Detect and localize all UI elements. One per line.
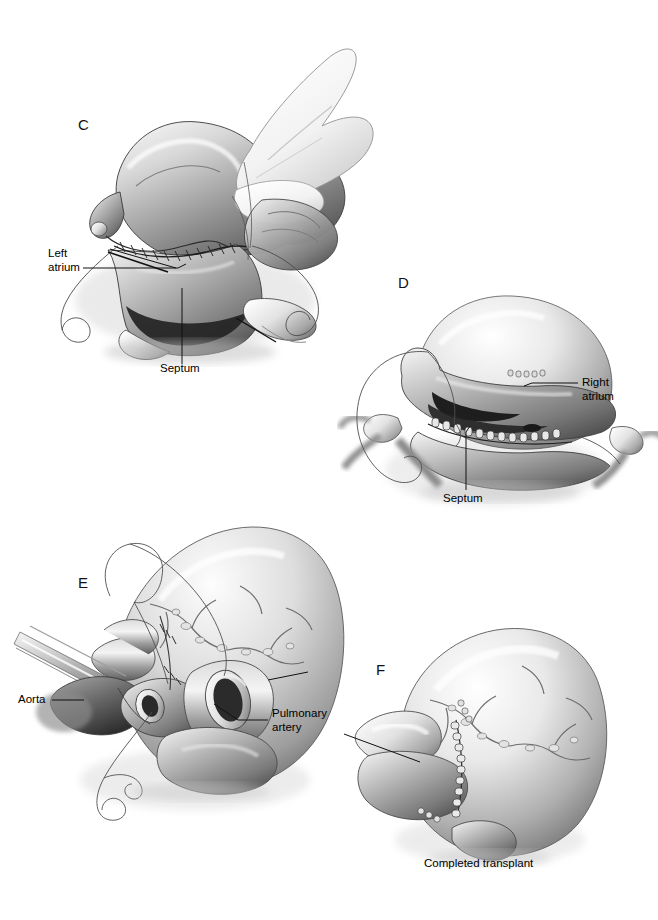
label-aorta: Aorta — [18, 693, 46, 707]
panel-letter-d: D — [398, 274, 409, 291]
panel-c-artwork — [61, 49, 373, 364]
panel-letter-c: C — [78, 116, 89, 133]
label-left-atrium: Left atrium — [48, 247, 80, 274]
illustration-artwork — [0, 0, 658, 920]
caption-completed-transplant: Completed transplant — [424, 857, 533, 869]
label-right-atrium: Right atrium — [582, 376, 614, 403]
panel-f-artwork — [355, 628, 607, 866]
figure-canvas: C D E F Left atrium Septum Right atrium … — [0, 0, 658, 920]
panel-e-artwork — [14, 527, 344, 820]
label-pulmonary-artery: Pulmonary artery — [272, 707, 327, 734]
panel-letter-f: F — [376, 661, 385, 678]
panel-letter-e: E — [78, 574, 88, 591]
label-septum-panel-d: Septum — [443, 492, 483, 506]
label-septum-panel-c: Septum — [160, 362, 200, 376]
